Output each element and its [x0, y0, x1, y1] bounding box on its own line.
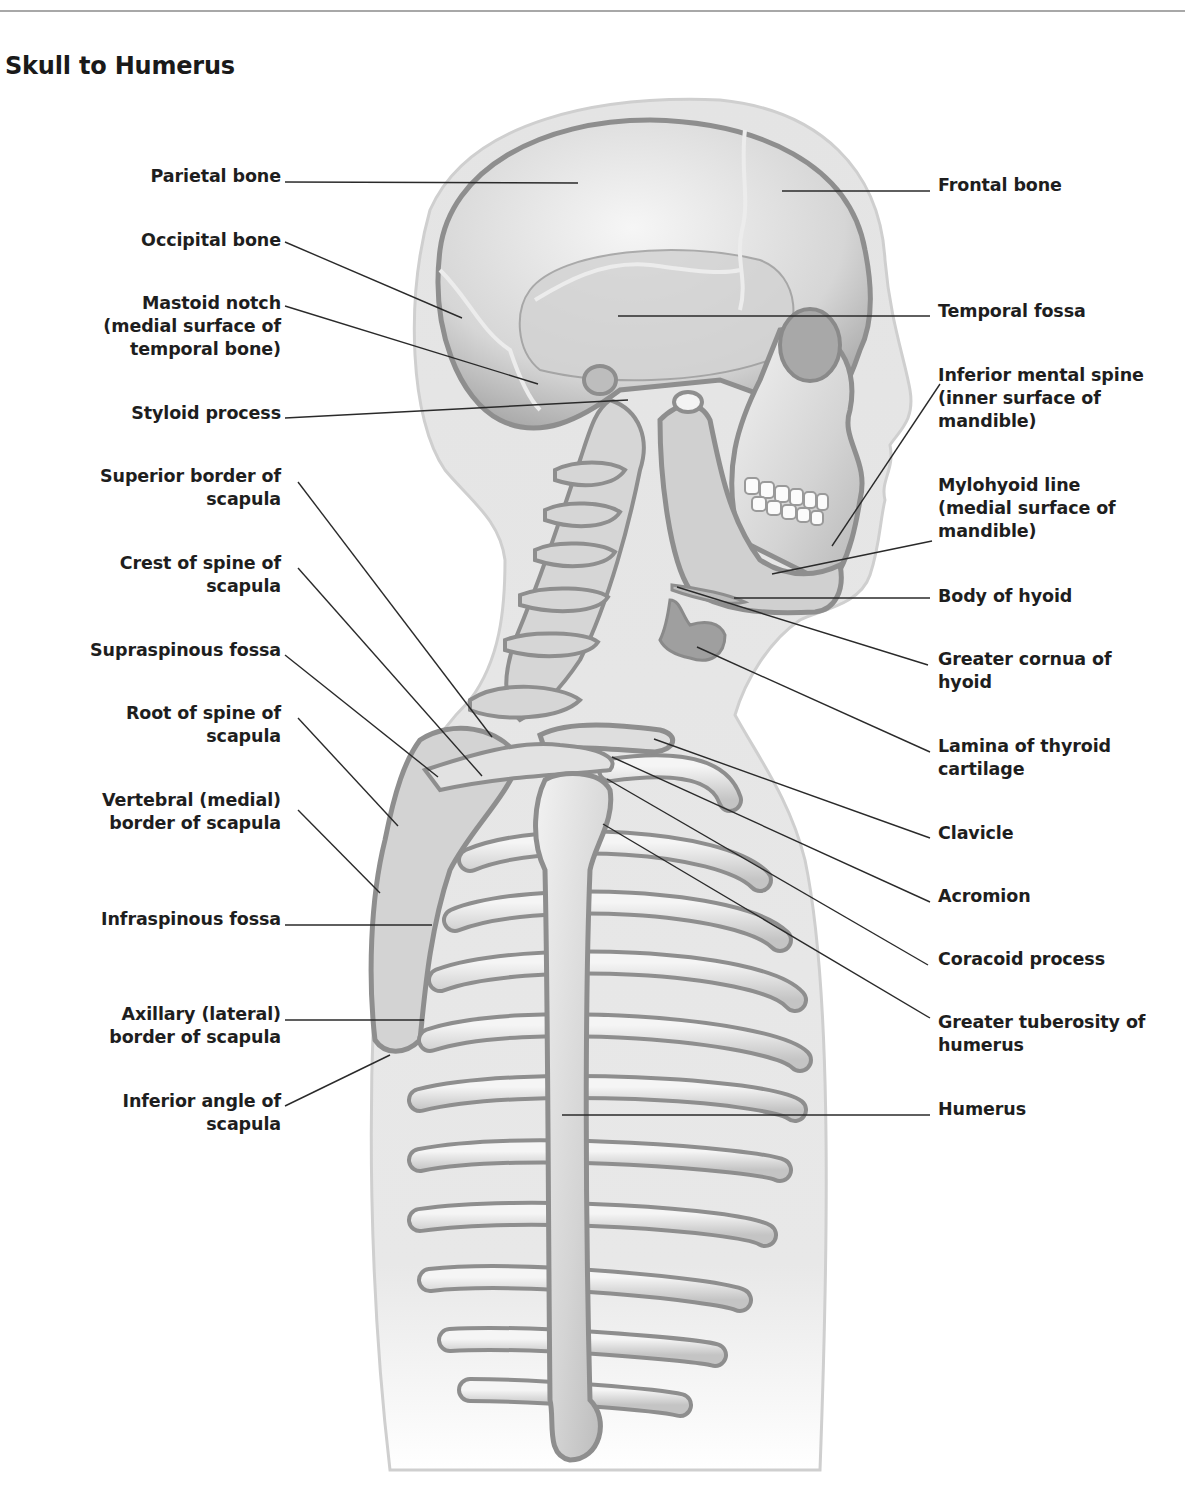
label-infraspinous-fossa: Infraspinous fossa [101, 908, 281, 931]
label-crest-of-spine-of-scapula: Crest of spine of scapula [120, 552, 281, 598]
orbit [780, 309, 840, 381]
label-clavicle: Clavicle [938, 822, 1014, 845]
label-lamina-of-thyroid-cartilage: Lamina of thyroid cartilage [938, 735, 1111, 781]
label-greater-tuberosity-of-humerus: Greater tuberosity of humerus [938, 1011, 1145, 1057]
label-mylohyoid-line: Mylohyoid line (medial surface of mandib… [938, 474, 1116, 543]
label-vertebral-border-of-scapula: Vertebral (medial) border of scapula [102, 789, 281, 835]
label-supraspinous-fossa: Supraspinous fossa [90, 639, 281, 662]
label-superior-border-of-scapula: Superior border of scapula [100, 465, 281, 511]
label-occipital-bone: Occipital bone [141, 229, 281, 252]
label-acromion: Acromion [938, 885, 1031, 908]
label-mastoid-notch: Mastoid notch (medial surface of tempora… [103, 292, 281, 361]
label-greater-cornua-of-hyoid: Greater cornua of hyoid [938, 648, 1111, 694]
label-coracoid-process: Coracoid process [938, 948, 1105, 971]
label-body-of-hyoid: Body of hyoid [938, 585, 1072, 608]
label-root-of-spine-of-scapula: Root of spine of scapula [126, 702, 281, 748]
label-styloid-process: Styloid process [131, 402, 281, 425]
label-temporal-fossa: Temporal fossa [938, 300, 1086, 323]
label-axillary-border-of-scapula: Axillary (lateral) border of scapula [109, 1003, 281, 1049]
label-inferior-mental-spine: Inferior mental spine (inner surface of … [938, 364, 1144, 433]
label-inferior-angle-of-scapula: Inferior angle of scapula [122, 1090, 281, 1136]
label-frontal-bone: Frontal bone [938, 174, 1062, 197]
label-parietal-bone: Parietal bone [150, 165, 281, 188]
label-humerus: Humerus [938, 1098, 1026, 1121]
